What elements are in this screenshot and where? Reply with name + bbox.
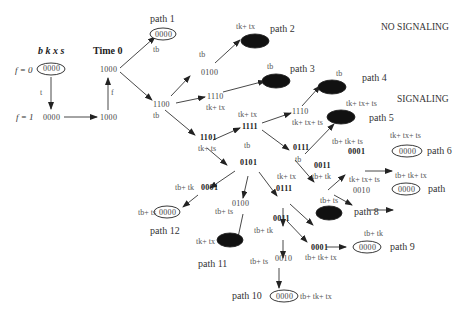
state-transition-diagram: b k x s Time 0 NO SIGNALING SIGNALING f … bbox=[0, 0, 466, 317]
state-1000-time0: 1000 bbox=[100, 65, 117, 75]
edge-label-0001c: tb+ tk+ tx bbox=[305, 253, 337, 263]
edge-label-tb-0100: tb bbox=[199, 50, 205, 60]
edge-label-0010a: tk+ tx+ ts bbox=[349, 175, 380, 185]
edge-label-tb1: tb bbox=[153, 45, 159, 55]
state-0111a: 0111 bbox=[293, 143, 309, 153]
state-1100: 1100 bbox=[153, 100, 170, 110]
edge-label-path12: tb+ ts bbox=[138, 208, 156, 218]
edge-label-path9: tb+ tk bbox=[364, 229, 383, 239]
state-0001b: 0001 bbox=[201, 183, 218, 193]
edge-label-t: t bbox=[40, 88, 42, 98]
edge-label-path2: tk+ tx bbox=[236, 22, 255, 32]
edge-label-1101: tk+ ts bbox=[198, 144, 216, 154]
edge-label-path10: tb+ tk+ tx bbox=[300, 292, 332, 302]
edge-label-0101: tb bbox=[244, 141, 250, 151]
state-0011a: 0011 bbox=[314, 161, 331, 171]
edge-label-0011b: tb+ tk bbox=[254, 226, 273, 236]
edge-label-path3: tb bbox=[267, 62, 273, 72]
edge-label-path4: tb bbox=[336, 69, 342, 79]
edge-label-0010b: tb+ ts bbox=[250, 257, 268, 267]
path-7-state: 0000 bbox=[398, 185, 415, 195]
state-0000-initial: 0000 bbox=[43, 64, 60, 74]
state-1111: 1111 bbox=[242, 122, 258, 132]
edge-label-1110a: tk+ tx bbox=[206, 103, 225, 113]
state-0111b: 0111 bbox=[276, 184, 292, 194]
path-1-label: path 1 bbox=[150, 14, 175, 24]
state-0010a: 0010 bbox=[353, 186, 370, 196]
edge-label-tk: tb bbox=[153, 111, 159, 121]
edge-label-0011a: tb+ tk bbox=[312, 172, 331, 182]
path-6-label: path 6 bbox=[427, 146, 452, 156]
edge-label-1111: tk+ tx bbox=[238, 110, 257, 120]
state-0000-f1: 0000 bbox=[43, 113, 60, 123]
state-1000-f1: 1000 bbox=[100, 113, 117, 123]
path-6-state: 0000 bbox=[399, 147, 416, 157]
path-10-label: path 10 bbox=[232, 291, 262, 301]
edge-label-path11: tk+ tx bbox=[196, 237, 215, 247]
state-1110a: 1110 bbox=[207, 92, 224, 102]
path-11-label: path 11 bbox=[198, 259, 227, 269]
no-signaling-label: NO SIGNALING bbox=[381, 22, 449, 32]
edge-label-path8: tb+ ts bbox=[320, 196, 338, 206]
edge-label-0111b: tk+ tx bbox=[277, 172, 296, 182]
edge-label-path6: tk+ tx+ ts bbox=[390, 131, 421, 141]
edge-label-0001b: tb+ tk bbox=[175, 183, 194, 193]
state-0001a: 0001 bbox=[348, 147, 365, 157]
signaling-label: SIGNALING bbox=[397, 94, 449, 104]
state-0001c: 0001 bbox=[311, 243, 328, 253]
path-2-label: path 2 bbox=[270, 24, 295, 34]
path-8-label: path 8 bbox=[354, 207, 379, 217]
edge-label-0100b: tb+ ts bbox=[215, 207, 233, 217]
state-0100b: 0100 bbox=[232, 199, 249, 209]
edge-label-path7: tb+ tk+ tx bbox=[395, 171, 427, 181]
path-3-label: path 3 bbox=[290, 64, 315, 74]
path-12-label: path 12 bbox=[150, 226, 180, 236]
state-0100: 0100 bbox=[201, 68, 218, 78]
edge-label-1110b: tk+ tx+ ts bbox=[292, 118, 323, 128]
path-1-state: 0000 bbox=[155, 30, 172, 40]
state-0010b: 0010 bbox=[275, 254, 292, 264]
f1-label: f = 1 bbox=[16, 112, 34, 122]
path-9-label: path 9 bbox=[390, 242, 415, 252]
path-5-label: path 5 bbox=[369, 113, 394, 123]
state-1110b: 1110 bbox=[292, 107, 309, 117]
state-0101: 0101 bbox=[240, 158, 257, 168]
state-1101: 1101 bbox=[200, 133, 217, 143]
edge-label-path5: tk+ tx+ ts bbox=[346, 99, 377, 109]
path-10-state: 0000 bbox=[276, 292, 293, 302]
path-9-state: 0000 bbox=[359, 243, 376, 253]
path-7-label: path bbox=[428, 184, 445, 194]
column-header-bkxs: b k x s bbox=[38, 46, 64, 56]
edge-label-f: f bbox=[111, 88, 114, 98]
diagram-edges bbox=[0, 0, 466, 317]
state-0011b: 0011 bbox=[273, 214, 290, 224]
path-4-label: path 4 bbox=[362, 73, 387, 83]
edge-label-0001a: tb+ tk+ ts bbox=[332, 137, 363, 147]
path-12-state: 0000 bbox=[159, 208, 176, 218]
f0-label: f = 0 bbox=[15, 65, 33, 75]
time0-label: Time 0 bbox=[93, 46, 123, 56]
edge-label-0111a: tb bbox=[295, 155, 301, 165]
